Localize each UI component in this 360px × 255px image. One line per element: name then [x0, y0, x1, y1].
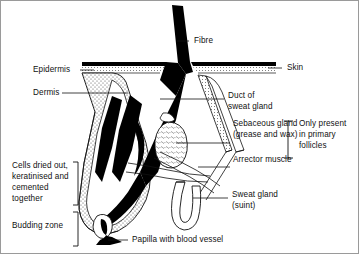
- sebaceous-gland-group: [155, 113, 187, 168]
- label-skin: Skin: [287, 63, 303, 73]
- sweat-gland-coil-group: [172, 182, 201, 230]
- label-only-present-line1: Only present: [299, 119, 346, 129]
- epidermis-right: [193, 66, 276, 73]
- label-arrector-muscle: Arrector muscle: [233, 155, 292, 165]
- sweat-gland-body: [172, 182, 201, 230]
- sweat-duct-lower-left: [198, 150, 232, 196]
- bracket-cells-dried: [73, 162, 78, 205]
- label-sweat-gland-line2: (suint): [232, 201, 255, 211]
- label-budding-zone: Budding zone: [12, 221, 63, 231]
- skin-surface-right: [191, 62, 276, 66]
- bracket-budding-zone: [73, 212, 78, 246]
- label-duct-of-sweat-gland-line2: sweat gland: [228, 102, 273, 112]
- skin-surface-left: [82, 62, 169, 66]
- label-cells-dried-line1: Cells dried out,: [12, 161, 68, 171]
- label-sebaceous-gland-line2: (grease and wax): [233, 130, 298, 140]
- label-dermis: Dermis: [33, 88, 59, 98]
- label-papilla: Papilla with blood vessel: [132, 235, 223, 245]
- label-only-present-line2: in primary: [299, 130, 336, 140]
- label-sebaceous-gland-line1: Sebaceous gland: [233, 119, 298, 129]
- label-epidermis: Epidermis: [33, 65, 70, 75]
- label-cells-dried-line3: cemented: [12, 183, 49, 193]
- label-only-present-line3: follicles: [299, 141, 327, 151]
- label-duct-of-sweat-gland-line1: Duct of: [228, 91, 255, 101]
- label-sweat-gland-line1: Sweat gland: [232, 190, 278, 200]
- label-fibre: Fibre: [194, 36, 213, 46]
- epidermis-left: [82, 66, 168, 73]
- label-cells-dried-line4: together: [12, 194, 43, 204]
- label-cells-dried-line2: keratinised and: [12, 172, 69, 182]
- diagram-page: Fibre Epidermis Dermis Skin Duct of swea…: [0, 0, 360, 255]
